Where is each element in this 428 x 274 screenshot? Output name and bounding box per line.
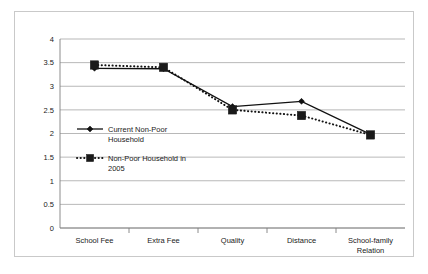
y-axis-tick-label: 0.5 (44, 200, 54, 209)
data-point-marker (90, 61, 98, 69)
data-point-marker (228, 106, 236, 114)
x-axis-tick-label: School-family (348, 236, 393, 245)
chart-plot-area: 00.511.522.533.54School FeeExtra FeeQual… (15, 12, 415, 258)
y-axis-tick-label: 1.5 (44, 153, 54, 162)
data-point-marker (297, 111, 305, 119)
x-axis-tick-label: Distance (287, 236, 316, 245)
legend-label-series-1: Household (108, 135, 144, 144)
legend-label-series-1: Current Non-Poor (108, 125, 168, 134)
data-point-marker (159, 63, 167, 71)
y-axis-tick-label: 2 (50, 129, 54, 138)
x-axis-tick-label: Quality (221, 236, 245, 245)
chart-frame: 00.511.522.533.54School FeeExtra FeeQual… (14, 11, 414, 257)
legend-marker-series-1 (87, 126, 93, 132)
y-axis-tick-label: 4 (50, 35, 54, 44)
line-chart: 00.511.522.533.54School FeeExtra FeeQual… (15, 12, 415, 258)
data-point-marker (299, 98, 305, 104)
y-axis-tick-label: 3.5 (44, 58, 54, 67)
y-axis-tick-label: 1 (50, 177, 54, 186)
data-point-marker (366, 131, 374, 139)
x-axis-tick-label: Extra Fee (147, 236, 180, 245)
legend-label-series-2: 2005 (108, 164, 125, 173)
legend-label-series-2: Non-Poor Household in (108, 154, 186, 163)
legend-marker-series-2 (87, 154, 94, 161)
x-axis-tick-label: School Fee (76, 236, 114, 245)
y-axis-tick-label: 0 (50, 224, 54, 233)
y-axis-tick-label: 3 (50, 82, 54, 91)
x-axis-tick-label: Relation (357, 246, 385, 255)
y-axis-tick-label: 2.5 (44, 106, 54, 115)
